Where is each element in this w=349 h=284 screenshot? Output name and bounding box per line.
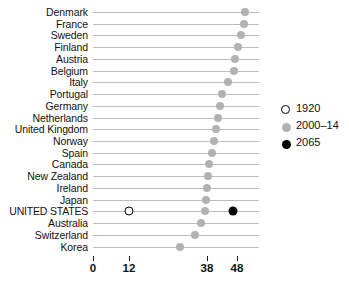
x-axis-tick [207, 256, 208, 261]
row-label-norway: Norway [0, 135, 88, 147]
row-label-united-kingdom: United Kingdom [0, 123, 88, 135]
row-label-germany: Germany [0, 100, 88, 112]
row-label-france: France [0, 18, 88, 30]
x-axis-tick-label: 48 [222, 261, 252, 275]
data-point-2000-14[interactable] [208, 149, 216, 157]
chart-row: Austria [0, 53, 349, 65]
data-point-2000-14[interactable] [204, 172, 212, 180]
chart-container: DenmarkFranceSwedenFinlandAustriaBelgium… [0, 0, 349, 284]
data-point-2000-14[interactable] [216, 102, 224, 110]
gridline [93, 94, 259, 95]
row-label-new-zealand: New Zealand [0, 170, 88, 182]
data-point-2000-14[interactable] [214, 114, 222, 122]
gridline [93, 153, 259, 154]
legend-item-2000-14[interactable]: 2000–14 [281, 118, 349, 133]
data-point-2000-14[interactable] [191, 231, 199, 239]
gridline [93, 164, 259, 165]
row-label-portugal: Portugal [0, 88, 88, 100]
row-label-denmark: Denmark [0, 6, 88, 18]
chart-row: Denmark [0, 6, 349, 18]
chart-row: Australia [0, 217, 349, 229]
gridline [93, 223, 259, 224]
legend-item-2065[interactable]: 2065 [281, 135, 349, 150]
gridline [93, 188, 259, 189]
chart-row: Canada [0, 158, 349, 170]
x-axis-tick [93, 256, 94, 261]
chart-row: France [0, 18, 349, 30]
gridline [93, 176, 259, 177]
row-label-korea: Korea [0, 241, 88, 253]
chart-row: Ireland [0, 182, 349, 194]
data-point-2000-14[interactable] [176, 243, 184, 251]
row-label-finland: Finland [0, 41, 88, 53]
x-axis-tick-label: 12 [114, 261, 144, 275]
chart-row: Italy [0, 76, 349, 88]
data-point-2000-14[interactable] [203, 184, 211, 192]
gridline [93, 82, 259, 83]
legend-label: 1920 [296, 101, 320, 116]
x-axis-tick [129, 256, 130, 261]
gridline [93, 200, 259, 201]
row-label-united-states: UNITED STATES [0, 205, 88, 217]
chart-row: Korea [0, 241, 349, 253]
data-point-2000-14[interactable] [210, 137, 218, 145]
data-point-2000-14[interactable] [212, 125, 220, 133]
gridline [93, 118, 259, 119]
chart-row: Belgium [0, 65, 349, 77]
row-label-japan: Japan [0, 194, 88, 206]
data-point-2000-14[interactable] [234, 43, 242, 51]
gridline [93, 129, 259, 130]
chart-legend: 1920 2000–14 2065 [281, 101, 349, 152]
chart-row: Finland [0, 41, 349, 53]
chart-row: UNITED STATES [0, 205, 349, 217]
row-label-belgium: Belgium [0, 65, 88, 77]
x-axis-tick [237, 256, 238, 261]
data-point-2000-14[interactable] [237, 31, 245, 39]
chart-row: New Zealand [0, 170, 349, 182]
chart-row: Japan [0, 194, 349, 206]
row-label-spain: Spain [0, 147, 88, 159]
row-label-australia: Australia [0, 217, 88, 229]
gridline [93, 106, 259, 107]
row-label-austria: Austria [0, 53, 88, 65]
gridline [93, 24, 259, 25]
row-label-sweden: Sweden [0, 29, 88, 41]
data-point-2000-14[interactable] [241, 8, 249, 16]
data-point-2000-14[interactable] [218, 90, 226, 98]
row-label-canada: Canada [0, 158, 88, 170]
open-circle-icon [281, 105, 290, 114]
gridline [93, 141, 259, 142]
data-point-1920[interactable] [125, 207, 134, 216]
data-point-2000-14[interactable] [201, 207, 209, 215]
data-point-2065[interactable] [228, 207, 237, 216]
data-point-2000-14[interactable] [240, 20, 248, 28]
row-label-italy: Italy [0, 76, 88, 88]
legend-label: 2000–14 [296, 118, 339, 133]
gridline [93, 12, 259, 13]
x-axis-tick-label: 0 [78, 261, 108, 275]
chart-row: Sweden [0, 29, 349, 41]
gridline [93, 35, 259, 36]
x-axis-tick-label: 38 [192, 261, 222, 275]
chart-row: Switzerland [0, 229, 349, 241]
gridline [93, 235, 259, 236]
row-label-switzerland: Switzerland [0, 229, 88, 241]
black-circle-icon [282, 140, 291, 149]
data-point-2000-14[interactable] [197, 219, 205, 227]
data-point-2000-14[interactable] [230, 67, 238, 75]
gray-circle-icon [282, 123, 291, 132]
legend-label: 2065 [296, 135, 320, 150]
row-label-ireland: Ireland [0, 182, 88, 194]
data-point-2000-14[interactable] [231, 55, 239, 63]
data-point-2000-14[interactable] [205, 160, 213, 168]
data-point-2000-14[interactable] [224, 78, 232, 86]
row-label-netherlands: Netherlands [0, 112, 88, 124]
data-point-2000-14[interactable] [202, 196, 210, 204]
chart-row: Portugal [0, 88, 349, 100]
legend-item-1920[interactable]: 1920 [281, 101, 349, 116]
